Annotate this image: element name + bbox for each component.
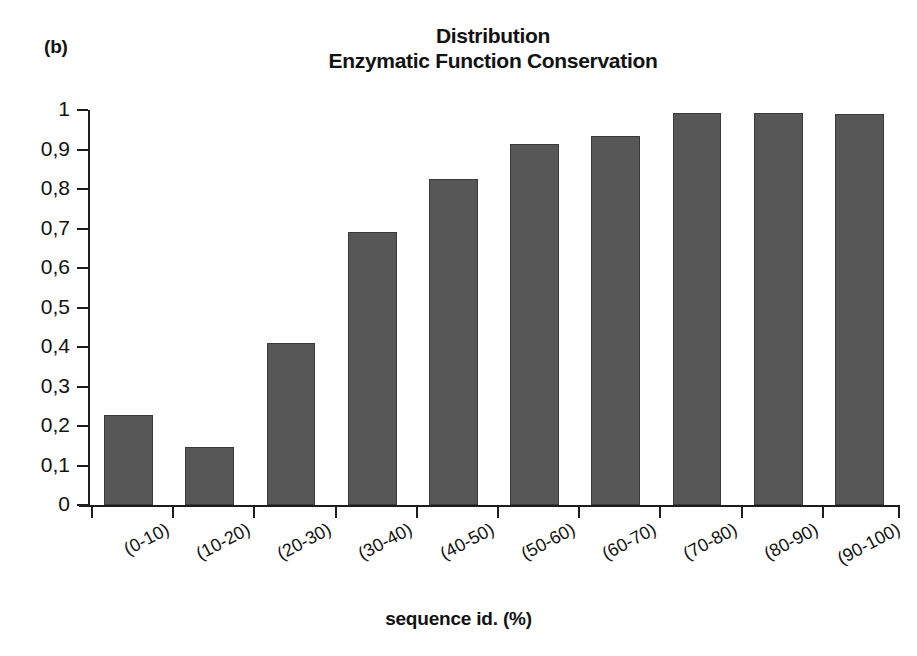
y-axis-tick-label: 1 — [10, 97, 70, 121]
y-axis-tick: 0 — [77, 504, 88, 506]
chart-title-line-2: Enzymatic Function Conservation — [108, 49, 878, 74]
panel-label: (b) — [44, 36, 68, 58]
x-axis-tick — [741, 505, 743, 518]
y-axis-tick-label: 0,9 — [10, 137, 70, 161]
bar — [510, 144, 559, 505]
bar — [754, 113, 803, 505]
y-axis-tick: 0,6 — [77, 267, 88, 269]
y-axis-tick: 0,3 — [77, 386, 88, 388]
y-axis-tick-label: 0,8 — [10, 176, 70, 200]
bar — [104, 415, 153, 505]
chart-title-line-1: Distribution — [108, 24, 878, 49]
y-axis-tick-label: 0,1 — [10, 453, 70, 477]
y-axis-tick-label: 0,2 — [10, 413, 70, 437]
y-axis-tick: 0,9 — [77, 149, 88, 151]
x-axis-tick — [91, 505, 93, 518]
y-axis-tick: 0,2 — [77, 425, 88, 427]
y-axis-tick: 0,7 — [77, 228, 88, 230]
x-axis-tick — [822, 505, 824, 518]
bar — [591, 136, 640, 505]
y-axis-tick: 0,1 — [77, 465, 88, 467]
y-axis-tick-label: 0,7 — [10, 216, 70, 240]
y-axis-tick-label: 0,6 — [10, 255, 70, 279]
x-axis-tick — [335, 505, 337, 518]
x-axis-tick — [416, 505, 418, 518]
y-axis-tick: 0,5 — [77, 307, 88, 309]
x-axis-line — [79, 505, 900, 507]
bar — [267, 343, 316, 505]
x-axis-tick — [659, 505, 661, 518]
y-axis-tick-label: 0,3 — [10, 374, 70, 398]
x-axis-category-labels: (0-10)(10-20)(20-30)(30-40)(40-50)(50-60… — [88, 519, 900, 599]
bar — [429, 179, 478, 505]
x-axis-tick — [253, 505, 255, 518]
bar — [348, 232, 397, 505]
y-axis-tick-label: 0 — [10, 492, 70, 516]
bar — [185, 447, 234, 505]
bar-series — [88, 110, 900, 505]
y-axis-tick-label: 0,4 — [10, 334, 70, 358]
bar — [835, 114, 884, 505]
chart-title: Distribution Enzymatic Function Conserva… — [108, 24, 878, 74]
y-axis-tick: 1 — [77, 109, 88, 111]
plot-area: 00,10,20,30,40,50,60,70,80,91 — [88, 110, 900, 505]
y-axis-tick: 0,8 — [77, 188, 88, 190]
y-axis-tick-label: 0,5 — [10, 295, 70, 319]
x-axis-tick — [898, 505, 900, 518]
x-axis-tick — [497, 505, 499, 518]
x-axis-tick — [172, 505, 174, 518]
bar — [673, 113, 722, 505]
x-axis-title: sequence id. (%) — [0, 608, 917, 630]
x-axis-tick — [578, 505, 580, 518]
y-axis-tick: 0,4 — [77, 346, 88, 348]
chart-figure: (b) Distribution Enzymatic Function Cons… — [0, 0, 917, 656]
